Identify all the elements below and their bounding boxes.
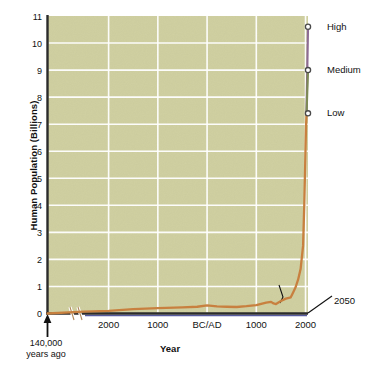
- origin-arrow-icon: [44, 314, 52, 337]
- population-chart-figure: Human Population (Billions) Year 11 10 9…: [0, 0, 384, 372]
- endpoint-marker-medium: [305, 67, 310, 72]
- endpoint-marker-low: [305, 111, 310, 116]
- plot-canvas: [0, 0, 384, 372]
- endpoint-marker-high: [305, 24, 310, 29]
- projection-leader-line: [308, 296, 332, 313]
- plot-background-grain: [47, 16, 308, 313]
- projection-line-medium: [307, 70, 308, 113]
